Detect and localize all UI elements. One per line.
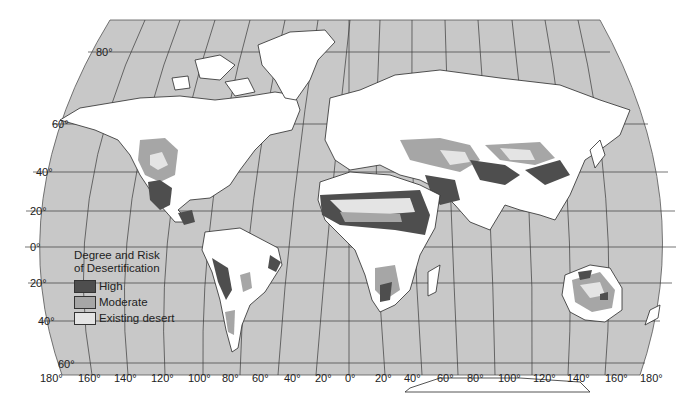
svg-text:60°: 60° bbox=[58, 358, 75, 370]
svg-text:140°: 140° bbox=[567, 372, 590, 384]
svg-text:40°: 40° bbox=[38, 315, 55, 327]
legend-label-moderate: Moderate bbox=[99, 296, 148, 308]
svg-text:0°: 0° bbox=[30, 241, 41, 253]
svg-text:140°: 140° bbox=[114, 372, 137, 384]
svg-text:160°: 160° bbox=[605, 372, 628, 384]
svg-text:80°: 80° bbox=[96, 46, 113, 58]
svg-text:120°: 120° bbox=[151, 372, 174, 384]
legend-label-high: High bbox=[99, 280, 123, 292]
svg-text:40°: 40° bbox=[284, 372, 301, 384]
legend-label-existing-desert: Existing desert bbox=[99, 312, 174, 324]
svg-text:180°: 180° bbox=[640, 372, 663, 384]
svg-text:60°: 60° bbox=[52, 118, 69, 130]
high-swatch bbox=[74, 280, 96, 293]
svg-text:40°: 40° bbox=[404, 372, 421, 384]
svg-text:100°: 100° bbox=[498, 372, 521, 384]
svg-text:20°: 20° bbox=[375, 372, 392, 384]
longitude-labels: 180° 160° 140° 120° 100° 80° 60° 40° 20°… bbox=[40, 372, 663, 384]
legend-title: Degree and Risk of Desertification bbox=[74, 249, 204, 275]
svg-text:0°: 0° bbox=[345, 372, 356, 384]
legend-item-high: High bbox=[74, 278, 204, 294]
world-desertification-map: 80° 60° 40° 20° 0° 20° 40° 60° 180° 160°… bbox=[0, 0, 694, 408]
svg-text:60°: 60° bbox=[437, 372, 454, 384]
svg-text:60°: 60° bbox=[252, 372, 269, 384]
existing-desert-swatch bbox=[74, 312, 96, 325]
svg-text:20°: 20° bbox=[315, 372, 332, 384]
svg-text:180°: 180° bbox=[40, 372, 63, 384]
svg-text:100°: 100° bbox=[188, 372, 211, 384]
moderate-swatch bbox=[74, 296, 96, 309]
legend: Degree and Risk of Desertification High … bbox=[74, 249, 204, 326]
svg-text:20°: 20° bbox=[30, 277, 47, 289]
svg-text:160°: 160° bbox=[78, 372, 101, 384]
legend-item-existing-desert: Existing desert bbox=[74, 310, 204, 326]
svg-text:80°: 80° bbox=[467, 372, 484, 384]
svg-text:120°: 120° bbox=[533, 372, 556, 384]
legend-item-moderate: Moderate bbox=[74, 294, 204, 310]
svg-text:20°: 20° bbox=[30, 205, 47, 217]
legend-title-line-1: Degree and Risk bbox=[74, 249, 204, 262]
legend-title-line-2: of Desertification bbox=[74, 262, 204, 275]
svg-text:80°: 80° bbox=[222, 372, 239, 384]
svg-text:40°: 40° bbox=[36, 166, 53, 178]
